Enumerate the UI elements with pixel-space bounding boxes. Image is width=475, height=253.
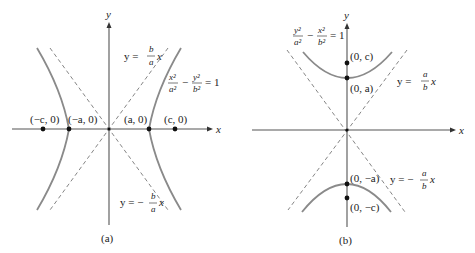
svg-text:a: a xyxy=(151,204,156,214)
hyperbola-figure: x y (−c, 0) (−a, 0) (a, 0) (c, 0) y = b … xyxy=(0,0,475,253)
vertex-top-label: (0, a) xyxy=(350,82,374,95)
focus-top-dot xyxy=(345,61,350,66)
svg-text:−: − xyxy=(307,29,313,41)
svg-text:−: − xyxy=(182,76,188,88)
svg-text:x²: x² xyxy=(168,72,176,82)
asymptote-positive-label: y = a b x xyxy=(397,69,436,92)
vertex-bottom-label: (0, −a) xyxy=(350,172,380,185)
svg-text:b: b xyxy=(149,44,154,54)
focus-right-dot xyxy=(173,127,178,132)
svg-text:y = −: y = − xyxy=(120,196,143,208)
focus-bottom-dot xyxy=(345,196,350,201)
x-axis-label: x xyxy=(215,123,221,135)
vertex-right-dot xyxy=(147,127,152,132)
y-axis-arrow-icon xyxy=(345,23,350,29)
focus-bottom-label: (0, −c) xyxy=(350,201,380,214)
svg-text:y =: y = xyxy=(397,75,411,87)
svg-text:a²: a² xyxy=(294,37,302,47)
vertex-left-label: (−a, 0) xyxy=(68,113,98,126)
panel-a: x y (−c, 0) (−a, 0) (a, 0) (c, 0) y = b … xyxy=(12,8,221,245)
vertex-left-dot xyxy=(67,127,72,132)
focus-left-label: (−c, 0) xyxy=(30,113,60,126)
x-axis-label: x xyxy=(458,124,464,136)
focus-left-dot xyxy=(41,127,46,132)
asymptote-positive-label: y = b a x xyxy=(124,44,162,67)
vertex-top-dot xyxy=(345,76,350,81)
svg-text:b: b xyxy=(422,181,427,191)
svg-text:a: a xyxy=(422,168,427,178)
svg-text:x: x xyxy=(430,75,436,87)
svg-text:b²: b² xyxy=(318,37,326,47)
y-axis-label: y xyxy=(105,8,111,20)
svg-text:b: b xyxy=(423,82,428,92)
svg-text:b²: b² xyxy=(193,84,201,94)
equation-label: x² a² − y² b² = 1 xyxy=(168,72,219,94)
focus-top-label: (0, c) xyxy=(350,50,374,63)
svg-text:y²: y² xyxy=(192,72,200,82)
svg-text:x²: x² xyxy=(317,25,325,35)
focus-right-label: (c, 0) xyxy=(164,113,188,126)
caption-b: (b) xyxy=(339,234,352,247)
vertex-bottom-dot xyxy=(345,182,350,187)
svg-text:x: x xyxy=(156,50,162,62)
svg-text:a: a xyxy=(423,69,428,79)
equation-label: y² a² − x² b² = 1 xyxy=(293,25,344,47)
y-axis-label: y xyxy=(343,9,349,21)
svg-text:y²: y² xyxy=(293,25,301,35)
vertex-right-label: (a, 0) xyxy=(124,113,148,126)
svg-text:y = −: y = − xyxy=(390,173,413,185)
svg-text:= 1: = 1 xyxy=(330,29,344,41)
svg-text:x: x xyxy=(429,173,435,185)
x-axis-arrow-icon xyxy=(207,127,213,132)
asymptote-negative-label: y = − b a x xyxy=(120,191,164,214)
svg-text:y =: y = xyxy=(124,50,138,62)
svg-text:a: a xyxy=(149,57,154,67)
asymptote-negative-label: y = − a b x xyxy=(390,168,435,191)
caption-a: (a) xyxy=(101,232,114,245)
panel-b: x y (0, c) (0, a) (0, −a) (0, −c) y² a² … xyxy=(252,9,464,247)
y-axis-arrow-icon xyxy=(107,22,112,28)
svg-text:b: b xyxy=(151,191,156,201)
svg-text:x: x xyxy=(158,196,164,208)
origin-dot xyxy=(107,127,110,130)
svg-text:a²: a² xyxy=(169,84,177,94)
svg-text:= 1: = 1 xyxy=(205,76,219,88)
x-axis-arrow-icon xyxy=(450,128,456,133)
origin-dot xyxy=(345,128,348,131)
